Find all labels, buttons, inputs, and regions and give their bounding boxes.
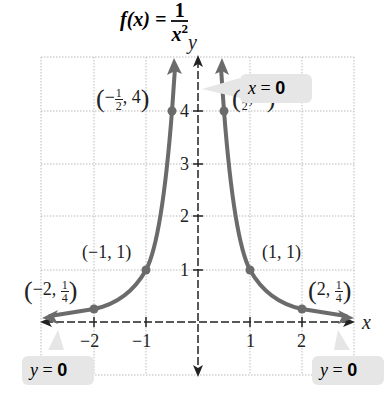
x-tick-2: 2 (297, 332, 306, 350)
callout-val: 0 (57, 360, 67, 380)
callout-var: y (30, 360, 38, 380)
fraction-quarter: 14 (61, 279, 69, 304)
x-tick-neg1: −1 (132, 332, 151, 350)
y-tick-2: 2 (180, 207, 189, 225)
title-lhs: f(x) = (120, 8, 166, 30)
point-label-neg-half-4: (−12, 4) (96, 86, 150, 112)
title-den-var: x (171, 23, 181, 45)
minus-sign: − (105, 87, 115, 107)
frac-num: 1 (61, 279, 69, 292)
frac-den: 4 (335, 292, 343, 304)
callout-var: y (320, 360, 328, 380)
callout-val: 0 (275, 78, 285, 98)
x-tick-neg2: −2 (80, 332, 99, 350)
y-axis-label: y (188, 32, 197, 52)
title-fraction: 1 x2 (171, 0, 188, 44)
point-label-1-1: (1, 1) (262, 243, 301, 261)
callout-horizontal-asymptote-right: y = 0 (312, 356, 384, 385)
frac-num: 1 (335, 279, 343, 292)
callout-val: 0 (347, 360, 357, 380)
fraction-quarter: 14 (335, 279, 343, 304)
fraction-half: 12 (115, 87, 123, 112)
frac-den: 2 (115, 100, 123, 112)
callout-horizontal-asymptote-left: y = 0 (22, 356, 94, 385)
x-tick-1: 1 (246, 332, 255, 350)
y-tick-3: 3 (180, 155, 189, 173)
chart-title: f(x) = 1 x2 (120, 0, 188, 44)
x-axis-label: x (362, 312, 371, 332)
y-tick-4: 4 (180, 102, 189, 120)
point-label-neg1-1: (−1, 1) (82, 243, 131, 261)
point-tail: , 4 (123, 87, 141, 107)
callout-eq: = (38, 360, 57, 380)
callout-eq: = (328, 360, 347, 380)
title-exponent: 2 (181, 21, 188, 36)
point-head: 2, (317, 279, 335, 299)
frac-den: 4 (61, 292, 69, 304)
y-tick-1: 1 (180, 261, 189, 279)
callout-var: x (248, 78, 256, 98)
frac-num: 1 (115, 87, 123, 100)
title-denominator: x2 (171, 22, 188, 44)
callout-eq: = (256, 78, 275, 98)
axes (45, 60, 350, 372)
point-label-neg2-quarter: (−2, 14) (24, 278, 78, 304)
point-label-2-quarter: (2, 14) (308, 278, 351, 304)
point-head: −2, (33, 279, 61, 299)
callout-vertical-asymptote: x = 0 (240, 74, 312, 103)
title-numerator: 1 (171, 0, 188, 22)
